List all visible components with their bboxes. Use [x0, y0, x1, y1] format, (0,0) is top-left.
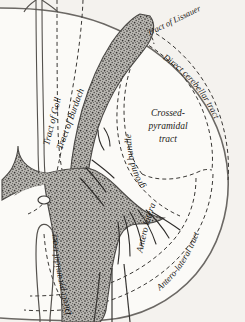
diagram-canvas: Tract of Goll Tract of Burdach Tract of …: [0, 0, 245, 322]
spinal-cord-diagram: Tract of Goll Tract of Burdach Tract of …: [0, 0, 245, 322]
label-crossed-pyramidal-tract-line3: tract: [159, 134, 177, 144]
label-crossed-pyramidal-tract-line2: pyramidal: [147, 121, 187, 131]
label-crossed-pyramidal-tract-line1: Crossed-: [151, 108, 185, 118]
label-tract-of-lissauer: Tract of Lissauer: [145, 3, 202, 38]
central-canal: [38, 196, 50, 204]
